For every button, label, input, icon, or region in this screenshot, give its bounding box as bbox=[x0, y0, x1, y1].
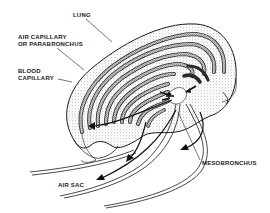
label-air-capillary-line1: AIR CAPILLARY bbox=[18, 34, 83, 41]
label-air-sac: AIR SAC bbox=[58, 182, 84, 189]
blood-capillary-leader-line bbox=[58, 79, 72, 82]
label-blood-capillary: BLOOD CAPILLARY bbox=[18, 68, 54, 82]
lung-illustration bbox=[0, 0, 270, 213]
label-blood-capillary-line2: CAPILLARY bbox=[18, 75, 54, 82]
lung-leader-line bbox=[86, 19, 112, 42]
label-air-capillary-line2: OR PARABRONCHUS bbox=[18, 41, 83, 48]
label-blood-capillary-line1: BLOOD bbox=[18, 68, 54, 75]
label-lung: LUNG bbox=[73, 12, 91, 19]
label-air-capillary: AIR CAPILLARY OR PARABRONCHUS bbox=[18, 34, 83, 48]
label-mesobronchus: MESOBRONCHUS bbox=[202, 160, 257, 167]
air-capillary-leader-line bbox=[57, 48, 84, 70]
bird-lung-diagram: LUNG AIR CAPILLARY OR PARABRONCHUS BLOOD… bbox=[0, 0, 270, 213]
